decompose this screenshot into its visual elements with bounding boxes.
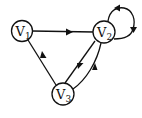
node-v2: V2 xyxy=(93,21,115,43)
node-v3-subscript: 3 xyxy=(65,94,71,104)
node-v1: V1 xyxy=(12,21,33,42)
node-v3: V3 xyxy=(52,83,74,105)
arrowhead-icon xyxy=(66,29,73,36)
node-v3-letter: V xyxy=(55,87,66,102)
edge-v3-v1 xyxy=(28,40,56,85)
arrowhead-icon xyxy=(40,51,47,58)
node-v1-subscript: 1 xyxy=(25,31,31,41)
node-v1-letter: V xyxy=(15,24,26,39)
arrowhead-icon xyxy=(77,63,84,69)
node-v2-letter: V xyxy=(96,25,107,40)
edge-v2-v3 xyxy=(65,41,95,83)
edge-v1-v2 xyxy=(32,29,94,36)
node-v2-subscript: 2 xyxy=(106,32,112,42)
directed-graph: V1 V2 V3 xyxy=(0,0,142,118)
arrowhead-icon xyxy=(114,5,120,12)
